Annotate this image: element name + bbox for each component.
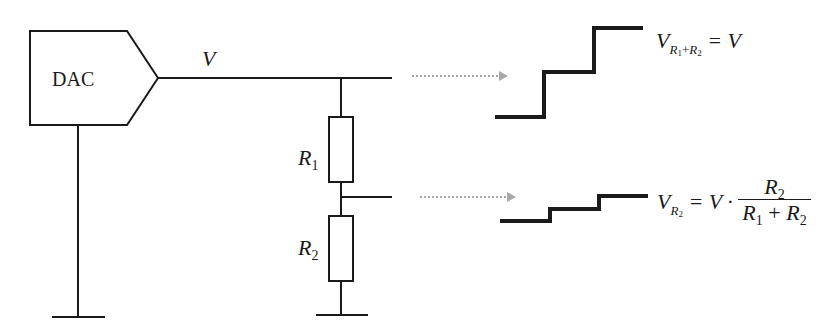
eq-top-rhs: = V [707, 28, 741, 53]
waveform-full [495, 28, 643, 117]
resistor-r1 [329, 117, 353, 182]
eq-top-v: V [656, 28, 669, 53]
eq-top-sub: R1+R2 [669, 42, 701, 57]
fraction-denominator: R1 + R2 [738, 200, 810, 226]
arrow-bottom [420, 192, 516, 202]
r1-label: R1 [298, 147, 318, 169]
r2-sub: 2 [311, 248, 318, 263]
r1-name: R [298, 145, 311, 170]
dac-label: DAC [52, 69, 94, 89]
arrow-top [412, 71, 508, 81]
r2-name: R [298, 235, 311, 260]
eq-bot-v: V [657, 189, 670, 214]
wire-v-label: V [202, 48, 215, 70]
resistor-r2 [329, 216, 353, 281]
r2-label: R2 [298, 237, 318, 259]
fraction-numerator: R2 [738, 174, 810, 200]
eq-bot-eq: = V · [688, 189, 732, 214]
eq-bot-fraction: R2 R1 + R2 [738, 174, 810, 227]
eq-bot-sub: R2 [670, 203, 682, 218]
equation-top: VR1+R2 = V [656, 30, 741, 52]
waveform-divided [500, 196, 648, 221]
r1-sub: 1 [311, 158, 318, 173]
equation-bottom: VR2 = V · R2 R1 + R2 [657, 178, 811, 231]
